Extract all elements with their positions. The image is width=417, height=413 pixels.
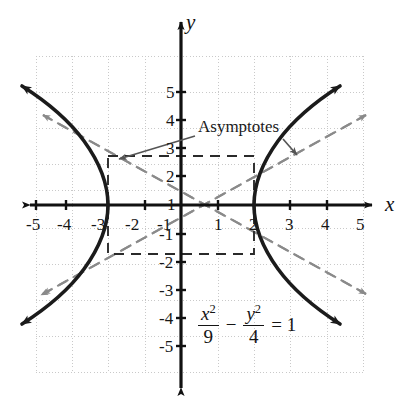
hyperbola-equation: x2 9 − y2 4 = 1 — [196, 303, 296, 346]
y-tick-label-3: 3 — [166, 140, 175, 157]
y-tick-label-neg1: -1 — [159, 226, 173, 243]
equation-right-side: 1 — [287, 314, 297, 336]
equation-fraction-x: x2 9 — [198, 304, 219, 347]
y-tick-label-neg5: -5 — [159, 338, 173, 355]
x-axis-label: x — [385, 194, 394, 215]
x-tick-label-neg2: -2 — [125, 216, 139, 233]
equation-fraction-y: y2 4 — [243, 304, 264, 347]
y-tick-label-5: 5 — [166, 84, 175, 101]
equation-denominator-4: 4 — [246, 326, 262, 347]
hyperbola-right-branch-upper — [254, 86, 340, 205]
x-tick-label-1: 1 — [214, 216, 223, 233]
y-tick-label-1: 1 — [167, 196, 176, 213]
asymptotes-annotation-label: Asymptotes — [198, 118, 279, 135]
graph-canvas — [0, 0, 417, 413]
x-tick-label-neg5: -5 — [26, 216, 40, 233]
x-tick-label-neg3: -3 — [91, 216, 105, 233]
x-tick-label-neg4: -4 — [57, 216, 71, 233]
equation-denominator-9: 9 — [201, 326, 217, 347]
equation-numerator-x: x2 — [198, 304, 219, 324]
equation-minus-operator: − — [226, 314, 237, 336]
y-tick-label-neg2: -2 — [159, 254, 173, 271]
y-tick-label-neg3: -3 — [159, 282, 173, 299]
y-tick-label-2: 2 — [166, 168, 175, 185]
x-tick-label-5: 5 — [356, 216, 365, 233]
equation-equals-sign: = — [271, 314, 282, 336]
y-axis-label: y — [186, 12, 195, 33]
x-tick-label-4: 4 — [321, 216, 330, 233]
equation-numerator-y: y2 — [243, 304, 264, 324]
x-tick-label-3: 3 — [285, 216, 294, 233]
y-tick-label-neg4: -4 — [159, 310, 173, 327]
x-tick-label-2: 2 — [249, 216, 258, 233]
y-tick-label-4: 4 — [166, 112, 175, 129]
hyperbola-figure: y x -5 -4 -3 -2 -1 1 2 3 4 5 5 4 3 2 1 -… — [0, 0, 417, 413]
hyperbola-left-branch-upper — [22, 86, 108, 205]
